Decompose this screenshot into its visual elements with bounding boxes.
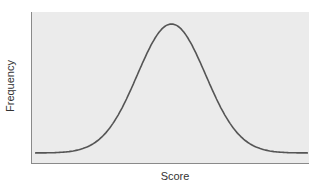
- distribution-curve: [0, 0, 325, 190]
- x-axis-label: Score: [145, 170, 205, 182]
- y-axis-label: Frequency: [4, 46, 16, 126]
